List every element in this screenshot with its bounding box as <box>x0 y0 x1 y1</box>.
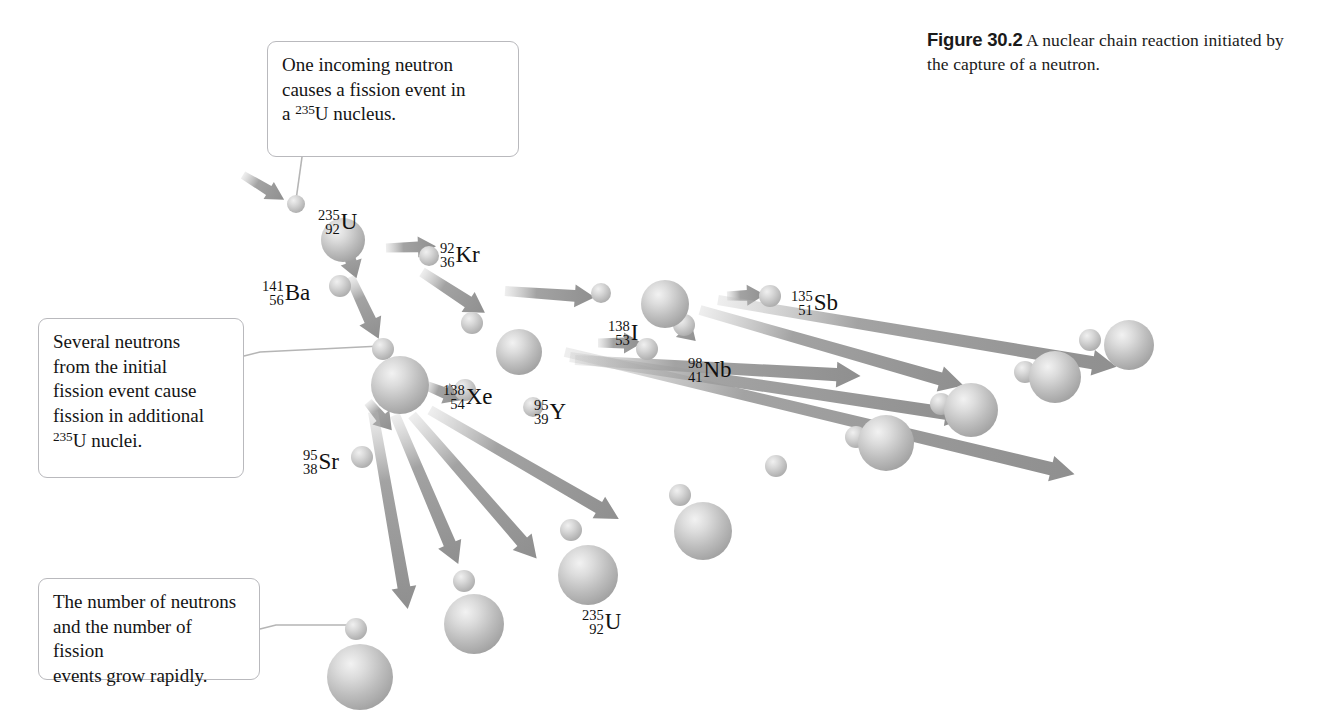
leader-line-callout-3 <box>260 625 348 629</box>
element-symbol: Xe <box>466 385 493 408</box>
nuclide-label-u235-lower: 23592U <box>582 607 621 637</box>
mass-number: 95 <box>303 448 318 463</box>
atomic-number: 54 <box>443 397 465 412</box>
mass-number: 95 <box>534 398 549 413</box>
atomic-number: 56 <box>262 293 284 308</box>
mass-number: 138 <box>608 319 630 334</box>
callout-1-mass-number: 235 <box>295 102 315 117</box>
callout-2-line-3: fission event cause <box>53 380 197 401</box>
nuclide-numbers-kr92: 9236 <box>440 241 455 271</box>
nuclide-numbers-xe138: 13854 <box>443 383 465 413</box>
callout-1-symbol: U <box>315 103 329 124</box>
element-symbol: Kr <box>456 243 480 266</box>
callout-2-line-1: Several neutrons <box>53 331 180 352</box>
leader-line-callout-1 <box>296 157 302 200</box>
callout-2-symbol: U <box>73 430 87 451</box>
nuclide-numbers-sr95: 9538 <box>303 448 318 478</box>
element-symbol: Nb <box>704 358 732 381</box>
element-symbol: Ba <box>285 281 311 304</box>
nuclide-numbers-nb98: 9841 <box>688 356 703 386</box>
atomic-number: 38 <box>303 462 318 477</box>
nuclide-numbers-ba141: 14156 <box>262 279 284 309</box>
nuclide-label-sr95: 9538Sr <box>303 447 339 477</box>
callout-2-tail: nuclei. <box>86 430 142 451</box>
figure-number: Figure 30.2 <box>927 29 1022 50</box>
nuclide-label-i138: 13853I <box>608 318 638 348</box>
atomic-number: 53 <box>608 333 630 348</box>
element-symbol: I <box>631 321 639 344</box>
callout-1-tail: nucleus. <box>329 103 397 124</box>
callout-2-text: Several neutrons from the initial fissio… <box>39 319 243 465</box>
callout-1-line-2: causes a fission event in <box>282 79 466 100</box>
element-symbol: Sb <box>814 291 838 314</box>
figure-caption: Figure 30.2 A nuclear chain reaction ini… <box>927 28 1307 76</box>
nuclide-numbers-y95: 9539 <box>534 398 549 428</box>
callout-2-line-4: fission in additional <box>53 405 204 426</box>
nuclide-numbers-u235-initial: 23592 <box>318 208 340 238</box>
callout-1-text: One incoming neutron causes a fission ev… <box>268 42 518 139</box>
mass-number: 138 <box>443 383 465 398</box>
callout-2-isotope: 235U <box>53 429 86 454</box>
nuclide-label-u235-initial: 23592U <box>318 207 357 237</box>
leader-line-callout-2 <box>244 346 381 356</box>
callout-1-line-1: One incoming neutron <box>282 54 453 75</box>
callout-number-of-neutrons: The number of neutrons and the number of… <box>38 578 260 680</box>
nuclide-label-kr92: 9236Kr <box>440 240 480 270</box>
callout-3-line-3: events grow rapidly. <box>53 665 207 686</box>
atomic-number: 92 <box>582 622 604 637</box>
mass-number: 92 <box>440 241 455 256</box>
nuclide-label-y95: 9539Y <box>534 397 566 427</box>
element-symbol: U <box>605 610 622 633</box>
callout-1-isotope: 235U <box>295 102 328 127</box>
nuclide-numbers-u235-lower: 23592 <box>582 608 604 638</box>
nuclide-label-nb98: 9841Nb <box>688 355 732 385</box>
element-symbol: Sr <box>319 450 339 473</box>
callout-2-line-2: from the initial <box>53 356 167 377</box>
atomic-number: 51 <box>791 303 813 318</box>
nuclide-label-xe138: 13854Xe <box>443 382 493 412</box>
nuclide-label-sb135: 13551Sb <box>791 288 838 318</box>
mass-number: 135 <box>791 289 813 304</box>
atomic-number: 92 <box>318 222 340 237</box>
callout-several-neutrons: Several neutrons from the initial fissio… <box>38 318 244 478</box>
mass-number: 98 <box>688 356 703 371</box>
callout-3-line-1: The number of neutrons <box>53 591 236 612</box>
atomic-number: 36 <box>440 255 455 270</box>
callout-one-incoming-neutron: One incoming neutron causes a fission ev… <box>267 41 519 157</box>
element-symbol: Y <box>550 400 567 423</box>
figure-canvas: Figure 30.2 A nuclear chain reaction ini… <box>0 0 1319 727</box>
callout-2-mass-number: 235 <box>53 429 73 444</box>
element-symbol: U <box>341 210 358 233</box>
mass-number: 235 <box>318 208 340 223</box>
callout-3-line-2: and the number of fission <box>53 616 192 662</box>
nuclide-label-ba141: 14156Ba <box>262 278 310 308</box>
callout-3-text: The number of neutrons and the number of… <box>39 579 259 701</box>
atomic-number: 41 <box>688 370 703 385</box>
atomic-number: 39 <box>534 412 549 427</box>
mass-number: 141 <box>262 279 284 294</box>
callout-1-line-3: a <box>282 103 295 124</box>
nuclide-numbers-sb135: 13551 <box>791 289 813 319</box>
mass-number: 235 <box>582 608 604 623</box>
nuclide-numbers-i138: 13853 <box>608 319 630 349</box>
